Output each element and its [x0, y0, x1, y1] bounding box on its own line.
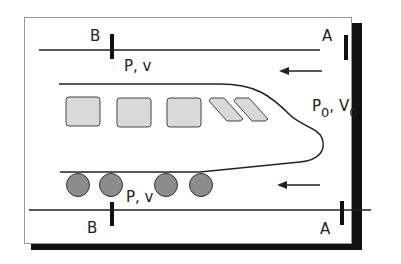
bottom-label-pv: P, v — [126, 188, 154, 206]
train-window-1 — [66, 97, 100, 126]
train-window-2 — [117, 98, 151, 127]
train-wheel-3 — [155, 174, 178, 197]
bottom-marker-a — [340, 201, 344, 225]
top-marker-b — [110, 34, 114, 59]
top-label-a: A — [322, 27, 333, 45]
top-label-b: B — [90, 27, 100, 45]
diagram-canvas: B A P, v P0, V0 P, v B A — [0, 0, 401, 264]
frame-shadow-right — [352, 23, 362, 250]
bottom-label-a: A — [320, 220, 331, 238]
frame-shadow-bottom — [31, 243, 362, 250]
train-wheel-2 — [100, 174, 123, 197]
train-wheel-1 — [67, 174, 90, 197]
train-wheel-4 — [190, 174, 213, 197]
top-label-pv: P, v — [124, 57, 152, 75]
bottom-label-b: B — [87, 219, 97, 237]
top-marker-a — [344, 35, 348, 60]
train-window-3 — [167, 98, 201, 127]
bottom-marker-b — [110, 202, 114, 226]
